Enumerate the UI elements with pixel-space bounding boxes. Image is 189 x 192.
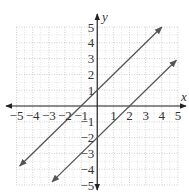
y-tick-label: 2 [88,67,95,82]
x-tick-label: −4 [26,108,40,123]
y-axis-label: y [100,9,108,24]
x-tick-label: −5 [10,108,24,123]
y-tick-label: −4 [80,162,94,177]
x-tick-label: 1 [110,108,117,123]
x-axis-label: x [180,89,187,104]
x-tick-label: 3 [142,108,149,123]
plot-lines [20,27,177,182]
y-tick-label: −1 [80,114,94,129]
x-tick-label: 5 [175,108,182,123]
tick-labels: −5−4−3−2−11234554321−1−2−3−4−5 [10,20,182,192]
x-tick-label: −3 [42,108,56,123]
y-tick-label: 5 [88,20,95,35]
y-tick-label: 4 [88,35,95,50]
x-tick-label: −2 [58,108,72,123]
x-tick-label: 2 [126,108,133,123]
y-tick-label: −3 [80,146,94,161]
y-tick-label: −2 [80,130,94,145]
y-tick-label: −5 [80,178,94,192]
coordinate-plane: −5−4−3−2−11234554321−1−2−3−4−5 y x [0,0,189,191]
y-tick-label: 3 [88,51,95,66]
x-tick-label: 4 [159,108,166,123]
y-tick-label: 1 [88,83,95,98]
